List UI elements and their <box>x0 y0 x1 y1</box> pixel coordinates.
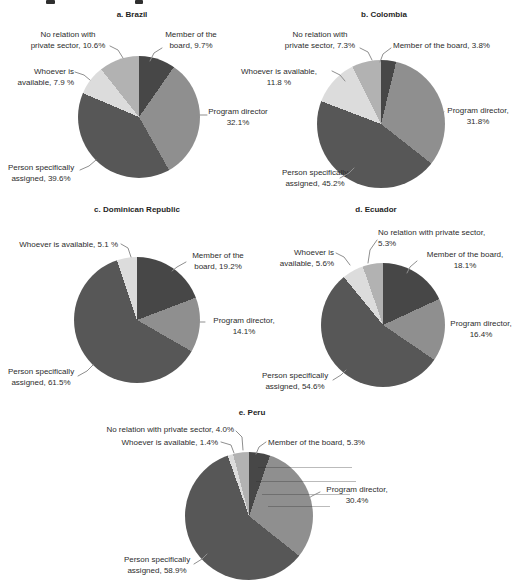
pie-ecuador <box>321 263 445 387</box>
label-line: 5.3% <box>378 238 504 249</box>
slice-label-whoever: Whoever is available, 5.1 % <box>14 239 118 250</box>
slice-label-person: Person specifically assigned, 54.6% <box>256 370 334 392</box>
slice-label-program: Program director, 14.1% <box>206 315 282 337</box>
label-line: Program director, <box>442 105 514 116</box>
chart-title-colombia: b. Colombia <box>314 10 454 19</box>
scan-artifact-line <box>256 481 356 482</box>
cropped-heading-fragment <box>46 0 55 4</box>
label-line: assigned, 61.5% <box>2 377 80 388</box>
label-line: assigned, 54.6% <box>256 381 334 392</box>
label-line: Whoever is <box>266 247 334 258</box>
pie-brazil <box>78 56 200 178</box>
figure-five-pie-charts: { "slice_colors": ["#474747", "#8f8f8f",… <box>0 0 522 581</box>
slice-label-program: Program director, 31.8% <box>442 105 514 127</box>
slice-label-person: Person specifically assigned, 39.6% <box>2 162 80 184</box>
scan-artifact-line <box>262 494 350 495</box>
label-line: No relation with private sector, 4.0% <box>96 424 234 435</box>
slice-label-program: Program director, 30.4% <box>322 484 392 506</box>
label-line: Whoever is available, 5.1 % <box>14 239 118 250</box>
label-line: private sector, 7.3% <box>280 40 360 51</box>
label-line: available, 7.9 % <box>8 77 74 88</box>
slice-label-person: Person specifically assigned, 45.2% <box>266 167 364 189</box>
label-line: Person specifically <box>256 370 334 381</box>
chart-title-dominican: c. Dominican Republic <box>67 205 207 214</box>
label-line: 30.4% <box>322 495 392 506</box>
slice-label-no-relation: No relation with private sector, 7.3% <box>280 29 360 51</box>
label-line: assigned, 45.2% <box>266 178 364 189</box>
slice-label-whoever: Whoever is available, 11.8 % <box>228 66 330 88</box>
slice-label-no-relation: No relation with private sector, 4.0% <box>96 424 234 435</box>
label-line: Person specifically <box>2 366 80 377</box>
slice-label-member: Member of the board, 9.7% <box>162 29 220 51</box>
label-line: Program director, <box>206 315 282 326</box>
label-line: available, 5.6% <box>266 258 334 269</box>
label-line: assigned, 39.6% <box>2 173 80 184</box>
label-line: Member of the board, <box>419 249 511 260</box>
label-line: 32.1% <box>204 117 272 128</box>
label-line: No relation with private sector, <box>378 227 504 238</box>
chart-title-brazil: a. Brazil <box>62 10 202 19</box>
label-line: 16.4% <box>446 329 516 340</box>
pie-dominican <box>74 257 200 383</box>
slice-label-whoever: Whoever is available, 1.4% <box>116 437 218 448</box>
slice-label-person: Person specifically assigned, 61.5% <box>2 366 80 388</box>
slice-label-no-relation: No relation with private sector, 5.3% <box>378 227 504 249</box>
label-line: Person specifically <box>118 554 196 565</box>
slice-label-person: Person specifically assigned, 58.9% <box>118 554 196 576</box>
label-line: Whoever is available, 1.4% <box>116 437 218 448</box>
label-line: 18.1% <box>419 260 511 271</box>
slice-label-no-relation: No relation with private sector, 10.6% <box>26 29 110 51</box>
label-line: Person specifically <box>2 162 80 173</box>
label-line: Program director <box>204 106 272 117</box>
scan-artifact-line <box>258 467 352 468</box>
slice-label-program: Program director, 16.4% <box>446 318 516 340</box>
label-line: No relation with <box>26 29 110 40</box>
pie-peru <box>185 452 313 580</box>
label-line: Whoever is available, <box>228 66 330 77</box>
slice-label-member: Member of the board, 18.1% <box>419 249 511 271</box>
cropped-heading-fragment <box>135 0 143 4</box>
slice-label-member: Member of the board, 3.8% <box>393 40 508 51</box>
slice-label-whoever: Whoever is available, 5.6% <box>266 247 334 269</box>
label-line: 14.1% <box>206 326 282 337</box>
label-line: Program director, <box>446 318 516 329</box>
chart-title-ecuador: d. Ecuador <box>306 205 446 214</box>
label-line: Member of the board, 3.8% <box>393 40 508 51</box>
label-line: Whoever is <box>8 66 74 77</box>
label-line: board, 9.7% <box>162 40 220 51</box>
label-line: board, 19.2% <box>188 261 248 272</box>
label-line: Member of the board, 5.3% <box>268 437 380 448</box>
slice-label-member: Member of the board, 19.2% <box>188 250 248 272</box>
label-line: Member of the <box>188 250 248 261</box>
chart-title-peru: e. Peru <box>182 408 322 417</box>
label-line: Member of the <box>162 29 220 40</box>
scan-artifact-line <box>268 506 330 507</box>
label-line: 11.8 % <box>228 77 330 88</box>
slice-label-program: Program director 32.1% <box>204 106 272 128</box>
label-line: 31.8% <box>442 116 514 127</box>
label-line: private sector, 10.6% <box>26 40 110 51</box>
label-line: assigned, 58.9% <box>118 565 196 576</box>
label-line: No relation with <box>280 29 360 40</box>
label-line: Person specifically <box>266 167 364 178</box>
slice-label-whoever: Whoever is available, 7.9 % <box>8 66 74 88</box>
slice-label-member: Member of the board, 5.3% <box>268 437 380 448</box>
